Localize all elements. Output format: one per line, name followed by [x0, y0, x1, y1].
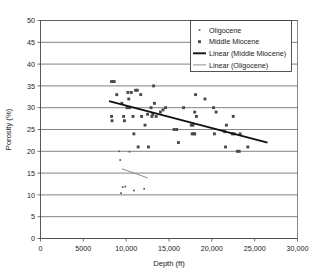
x-tick-label-30000: 30,000 [287, 244, 309, 253]
data-point [132, 132, 135, 135]
data-point [159, 111, 162, 114]
data-point [124, 186, 126, 188]
y-tick-label-45: 45 [27, 38, 35, 47]
data-point [152, 84, 155, 87]
data-point [147, 145, 150, 148]
y-tick-label-5: 5 [31, 212, 35, 221]
data-point [182, 106, 185, 109]
data-point [232, 115, 235, 118]
data-point [213, 132, 216, 135]
y-axis-title: Porosity (%) [4, 108, 13, 150]
data-point [139, 93, 142, 96]
data-point [119, 159, 121, 161]
legend-label: Linear (Oligocene) [209, 61, 268, 70]
data-point [126, 91, 129, 94]
data-point [113, 80, 116, 83]
y-tick-label-50: 50 [27, 16, 35, 25]
data-point [118, 150, 120, 152]
y-tick-label-40: 40 [27, 60, 35, 69]
legend-marker-icon [198, 40, 201, 43]
data-point [122, 186, 124, 188]
data-point [127, 98, 130, 101]
data-point [173, 128, 176, 131]
data-point [115, 93, 118, 96]
legend-marker-icon [199, 29, 201, 31]
data-point [193, 132, 196, 135]
y-tick-label-25: 25 [27, 125, 35, 134]
x-tick-label-0: 0 [39, 244, 43, 253]
data-point [120, 192, 122, 194]
y-tick-label-20: 20 [27, 147, 35, 156]
x-tick-label-5000: 5000 [75, 244, 91, 253]
x-tick-label-15000: 15,000 [158, 244, 180, 253]
legend-label: Middle Miocene [209, 37, 259, 46]
data-point [177, 141, 180, 144]
x-tick-label-10000: 10,000 [115, 244, 137, 253]
data-point [130, 91, 133, 94]
data-point [162, 108, 165, 111]
data-point [238, 150, 241, 153]
y-tick-label-10: 10 [27, 191, 35, 200]
data-point [164, 106, 167, 109]
data-point [144, 124, 147, 127]
y-tick-label-35: 35 [27, 82, 35, 91]
data-point [194, 93, 197, 96]
data-point [146, 113, 149, 116]
x-tick-label-20000: 20,000 [201, 244, 223, 253]
data-point [224, 145, 227, 148]
x-tick-label-25000: 25,000 [244, 244, 266, 253]
data-point [110, 115, 113, 118]
y-tick-label-15: 15 [27, 169, 35, 178]
y-tick-label-0: 0 [31, 234, 35, 243]
data-point [129, 151, 131, 153]
data-point [110, 80, 113, 83]
data-point [137, 145, 140, 148]
porosity-depth-chart: 05101520253035404550 0500010,00015,00020… [0, 0, 324, 275]
data-point [122, 115, 125, 118]
data-point [133, 190, 135, 192]
data-point [215, 111, 218, 114]
data-point [153, 102, 156, 105]
data-point [111, 119, 114, 122]
data-point [150, 106, 153, 109]
data-point [193, 111, 196, 114]
chart-canvas: 05101520253035404550 0500010,00015,00020… [0, 0, 324, 275]
data-point [136, 89, 139, 92]
data-point [155, 115, 158, 118]
data-point [246, 145, 249, 148]
data-point [195, 115, 198, 118]
data-point [225, 124, 228, 127]
data-point [175, 128, 178, 131]
data-point [204, 98, 207, 101]
legend-label: Linear (Middle Miocene) [209, 49, 286, 58]
chart-legend: OligoceneMiddle MioceneLinear (Middle Mi… [191, 21, 292, 72]
legend-label: Oligocene [209, 26, 241, 35]
data-point [143, 188, 145, 190]
data-point [212, 106, 215, 109]
x-axis-title: Depth (ft) [153, 259, 185, 268]
data-point [132, 115, 135, 118]
data-point [123, 119, 126, 122]
y-tick-label-30: 30 [27, 103, 35, 112]
data-point [140, 115, 143, 118]
